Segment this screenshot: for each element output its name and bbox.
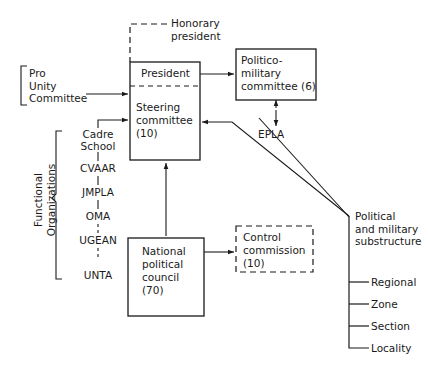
connector-layer — [0, 0, 428, 368]
functional-org-item-ugean: UGEAN — [68, 234, 128, 246]
substructure-level-section: Section — [371, 320, 410, 332]
honorary-president-label: Honorary president — [171, 17, 221, 42]
functional-org-item-unta: UNTA — [68, 269, 128, 281]
steering-committee-label: Steering committee (10) — [136, 101, 193, 140]
substructure-level-locality: Locality — [371, 342, 411, 354]
pro-unity-committee-label: Pro Unity Committee — [29, 67, 87, 105]
functional-org-item-oma: OMA — [68, 210, 128, 222]
functional-organizations-group-label: Functional Organizations — [32, 130, 58, 270]
organization-chart: Honorary president Pro Unity Committee P… — [0, 0, 428, 368]
functional-orgs-arrow — [98, 120, 128, 128]
political-military-substructure-label: Political and military substructure — [355, 210, 421, 248]
functional-org-item-cadre-school: Cadre School — [68, 128, 128, 152]
substructure-level-regional: Regional — [371, 276, 416, 288]
functional-org-item-cvaar: CVAAR — [68, 162, 128, 174]
president-label: President — [141, 67, 190, 80]
functional-org-item-jmpla: JMPLA — [68, 186, 128, 198]
politico-military-committee-label: Politico- military committee (6) — [241, 54, 316, 93]
substructure-level-zone: Zone — [371, 298, 398, 310]
honorary-president-connector — [130, 24, 167, 62]
epla-label: EPLA — [258, 128, 284, 141]
control-commission-label: Control commission (10) — [243, 231, 306, 270]
national-political-council-label: National political council (70) — [142, 245, 186, 297]
pro-unity-bracket — [21, 66, 27, 105]
